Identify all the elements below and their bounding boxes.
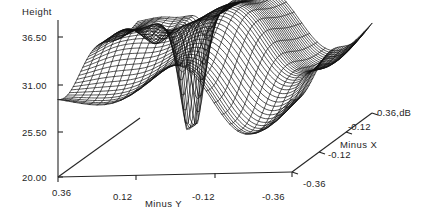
x-tick-3 bbox=[346, 132, 352, 134]
depth-guide-line bbox=[58, 118, 140, 177]
x-tick-1 bbox=[292, 172, 298, 174]
x-tick-2 bbox=[319, 152, 325, 154]
x-tick-4 bbox=[372, 113, 378, 115]
plot-canvas bbox=[0, 0, 427, 211]
minus-x-axis-line bbox=[292, 113, 372, 172]
minus-y-axis-line bbox=[58, 172, 292, 177]
surface-plot-figure: Height 36.50 31.00 25.50 20.00 0.36 0.12… bbox=[0, 0, 427, 211]
wireframe-mesh bbox=[58, 0, 372, 134]
